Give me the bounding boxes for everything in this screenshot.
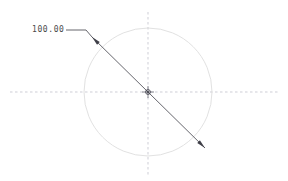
dimension-value-label: 100.00 — [32, 26, 65, 34]
diameter-dimension-line — [92, 37, 205, 148]
dimension-leader-line — [66, 30, 92, 37]
cad-drawing-canvas: 100.00 — [0, 0, 288, 181]
